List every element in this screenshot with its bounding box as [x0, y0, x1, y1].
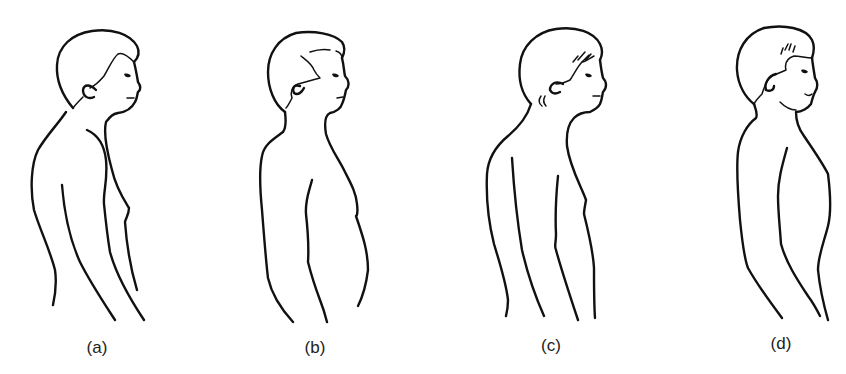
panel-d-ear: [765, 74, 776, 91]
panel-a-back: [32, 112, 66, 305]
panel-c-hair-strands: [573, 52, 591, 62]
panel-b-face-profile: [325, 58, 368, 306]
panel-c-arm-front: [512, 158, 544, 316]
panel-d-arm: [778, 148, 820, 316]
panel-c-label: (c): [541, 336, 561, 356]
panel-b-hair-top: [310, 50, 342, 58]
panel-b-eye: [332, 74, 339, 78]
panel-b-arm: [306, 180, 327, 322]
panel-a-arm-front: [62, 185, 115, 320]
panel-b-head-outline: [268, 32, 344, 112]
panel-b-drawing: [260, 32, 368, 322]
panel-d-back: [737, 104, 782, 318]
panel-a-head-outline: [57, 30, 139, 108]
panel-c-eye: [585, 74, 592, 78]
panel-a-eye: [124, 74, 131, 78]
panel-c-ear-lines: [539, 96, 546, 106]
panel-d-face-profile: [796, 58, 830, 320]
panel-a-hairline: [90, 53, 134, 88]
panel-d-head-outline: [737, 27, 814, 105]
posture-figure: (a) (b) (c) (d): [0, 0, 846, 374]
panel-b-label: (b): [305, 338, 326, 358]
panel-d-mouth: [805, 94, 812, 96]
panel-d-hairline: [754, 56, 812, 104]
panel-d-hair-strands: [781, 44, 795, 54]
panel-d-drawing: [737, 27, 830, 321]
panel-b-ear: [293, 85, 304, 94]
panel-a-drawing: [32, 30, 144, 320]
panel-c-face-profile: [567, 60, 606, 318]
panel-b-back: [260, 112, 293, 322]
panel-d-label: (d): [771, 334, 792, 354]
panel-a-label: (a): [87, 338, 108, 358]
posture-drawings: [0, 0, 846, 374]
panel-a-ear: [83, 86, 96, 99]
panel-c-back: [487, 104, 531, 316]
panel-a-neck-back: [73, 97, 83, 108]
panel-d-eye: [801, 70, 808, 74]
panel-b-mouth: [337, 97, 343, 98]
panel-c-drawing: [487, 28, 606, 320]
panel-c-arm-back: [555, 176, 578, 320]
panel-b-hairline: [286, 56, 320, 108]
panel-d-chin-line: [780, 102, 796, 110]
